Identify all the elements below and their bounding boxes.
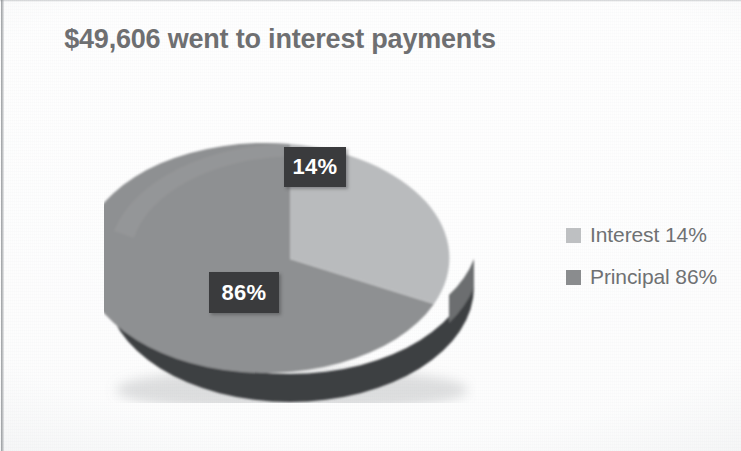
legend-label-principal: Principal 86% (590, 265, 717, 289)
scan-edge-top (0, 0, 741, 2)
legend-item-principal: Principal 86% (566, 264, 736, 290)
chart-title: $49,606 went to interest payments (0, 24, 560, 55)
pie-chart-screenshot: $49,606 went to interest payments (0, 0, 741, 451)
pie-chart-graphic (104, 98, 476, 403)
data-label-principal: 86% (209, 272, 279, 313)
pie-svg (104, 98, 476, 403)
legend-label-interest: Interest 14% (590, 223, 707, 247)
legend-item-interest: Interest 14% (566, 222, 736, 248)
scan-edge-left (1, 0, 4, 451)
legend-swatch-principal-icon (566, 270, 581, 285)
data-label-interest: 14% (284, 147, 346, 187)
chart-legend: Interest 14% Principal 86% (566, 222, 736, 306)
legend-swatch-interest-icon (566, 228, 581, 243)
